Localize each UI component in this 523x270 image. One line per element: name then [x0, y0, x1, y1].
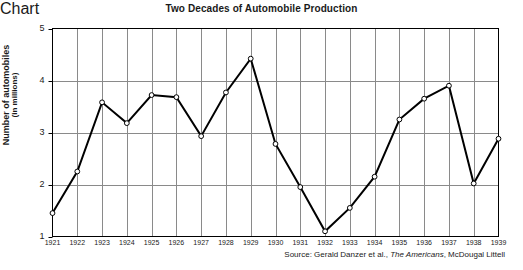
- data-point-marker: [50, 211, 55, 216]
- y-gridlines: [53, 82, 499, 186]
- source-prefix: Source: Gerald Danzer et al.,: [284, 250, 388, 259]
- data-point-marker: [273, 142, 278, 147]
- data-point-marker: [224, 90, 229, 95]
- data-point-marker: [75, 169, 80, 174]
- data-point-marker: [422, 96, 427, 101]
- y-axis-tick-label: 5: [29, 24, 45, 33]
- x-axis-tick-label: 1939: [484, 239, 514, 247]
- source-book-title: The Americans: [388, 250, 444, 259]
- x-gridlines: [78, 29, 475, 237]
- data-point-marker: [174, 95, 179, 100]
- data-point-marker: [100, 100, 105, 105]
- data-point-marker: [124, 121, 129, 126]
- chart-figure: Two Decades of Automobile Production Num…: [0, 0, 523, 270]
- data-point-marker: [347, 206, 352, 211]
- y-axis-tick-label: 3: [29, 128, 45, 137]
- data-point-marker: [397, 117, 402, 122]
- data-point-marker: [248, 56, 253, 61]
- data-point-marker: [471, 181, 476, 186]
- y-axis-ticks: [49, 30, 53, 238]
- data-point-marker: [323, 229, 328, 234]
- plot-frame: [53, 29, 499, 237]
- data-point-markers: [50, 56, 501, 233]
- data-point-marker: [372, 174, 377, 179]
- data-point-marker: [447, 83, 452, 88]
- source-note: Source: Gerald Danzer et al., The Americ…: [284, 250, 505, 259]
- data-point-marker: [298, 185, 303, 190]
- data-point-marker: [496, 136, 501, 141]
- y-axis-tick-label: 4: [29, 76, 45, 85]
- y-axis-tick-label: 2: [29, 180, 45, 189]
- data-point-marker: [149, 93, 154, 98]
- data-point-marker: [199, 134, 204, 139]
- plot-area: [0, 0, 523, 270]
- source-suffix: , McDougal Littell: [444, 250, 505, 259]
